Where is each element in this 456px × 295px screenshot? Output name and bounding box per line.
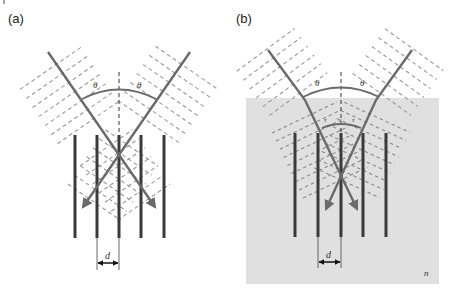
- panel-a-theta-left: θ: [93, 80, 98, 90]
- wavefront-line: [149, 55, 212, 98]
- wavefront-line: [118, 101, 181, 144]
- panel-b-theta-right: θ: [360, 78, 365, 88]
- panel-a: (a) θ θ d: [8, 11, 218, 270]
- panel-a-lattice-planes: [75, 135, 164, 238]
- wavefront-line: [385, 29, 443, 71]
- wavefront-line: [256, 55, 314, 98]
- wavefront-line: [366, 55, 424, 97]
- wavefront-line: [33, 64, 96, 107]
- panel-a-label: (a): [8, 11, 24, 26]
- wavefront-line: [237, 29, 295, 72]
- panel-a-theta-right: θ: [137, 80, 142, 90]
- panel-b: (b) θ θ τ τ d n: [236, 11, 443, 284]
- wavefront-line: [372, 47, 430, 89]
- wavefront-line: [250, 46, 308, 89]
- wavefront-line: [45, 83, 108, 126]
- bragg-diffraction-figure: (a) θ θ d (b) θ θ τ τ: [0, 0, 456, 295]
- wavefront-line: [26, 55, 89, 98]
- wavefront-line: [143, 64, 206, 107]
- wavefront-line: [58, 101, 121, 144]
- wavefront-line: [243, 37, 301, 80]
- wavefront-line: [156, 46, 219, 89]
- panel-a-d-label: d: [105, 250, 111, 261]
- panel-b-theta-left: θ: [315, 78, 320, 88]
- wavefront-line: [20, 46, 83, 89]
- panel-b-label: (b): [236, 11, 252, 26]
- wavefront-line: [378, 38, 437, 80]
- panel-b-refractive-index-label: n: [424, 268, 429, 278]
